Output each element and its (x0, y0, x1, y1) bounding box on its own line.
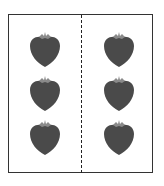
strawberry-icon (28, 75, 62, 113)
strawberry-icon (102, 75, 136, 113)
dashed-divider (81, 15, 82, 173)
strawberry-icon (102, 119, 136, 157)
strawberry-icon (28, 31, 62, 69)
strawberry-icon (102, 31, 136, 69)
strawberry-icon (28, 119, 62, 157)
